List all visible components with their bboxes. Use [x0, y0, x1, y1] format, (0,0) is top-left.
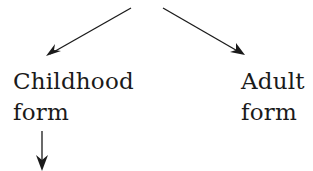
node-childhood-line-2: form	[13, 97, 134, 128]
node-childhood-form: Childhood form	[13, 66, 134, 128]
node-adult-line-1: Adult	[241, 66, 305, 97]
node-adult-line-2: form	[241, 97, 305, 128]
node-childhood-line-1: Childhood	[13, 66, 134, 97]
arrow-down-from-childhood-icon	[36, 131, 48, 171]
arrow-to-adult-icon	[163, 8, 245, 55]
node-adult-form: Adult form	[241, 66, 305, 128]
diagram-canvas: Childhood form Adult form	[0, 0, 313, 171]
arrow-to-childhood-icon	[46, 8, 131, 56]
